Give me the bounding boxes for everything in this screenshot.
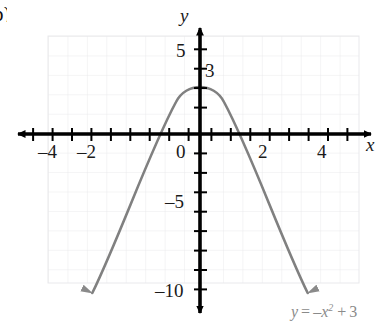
x-axis-label: x bbox=[366, 135, 374, 154]
y-tick-label-3: 3 bbox=[205, 61, 215, 80]
graph-figure: b) bbox=[0, 0, 389, 324]
x-tick-label-4: 4 bbox=[317, 142, 327, 161]
x-tick-label-neg2: –2 bbox=[77, 142, 96, 161]
equation-constant: 3 bbox=[349, 303, 357, 320]
x-tick-label-neg4: –4 bbox=[38, 142, 57, 161]
coordinate-plane bbox=[0, 0, 389, 324]
y-tick-label-neg10: –10 bbox=[155, 281, 184, 300]
equation-plus-sign: + bbox=[333, 303, 349, 320]
equation-annotation: y=–x2+3 bbox=[291, 303, 357, 320]
y-axis-label: y bbox=[180, 6, 188, 25]
y-tick-label-5: 5 bbox=[176, 41, 186, 60]
y-tick-label-neg5: –5 bbox=[165, 192, 184, 211]
x-tick-label-2: 2 bbox=[258, 142, 268, 161]
equation-negative-sign: – bbox=[313, 303, 321, 320]
equation-equals: = bbox=[298, 303, 313, 320]
x-tick-label-0: 0 bbox=[176, 142, 186, 161]
